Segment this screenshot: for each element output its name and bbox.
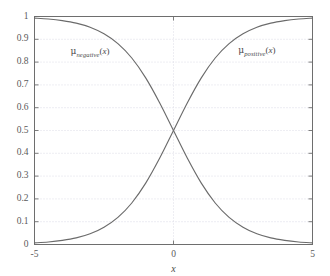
y-tick-label: 0: [0, 240, 29, 250]
mu-negative-close-paren: ): [107, 46, 110, 56]
mu-negative-subscript: negative: [76, 51, 99, 58]
y-tick-label: 0.3: [0, 171, 29, 181]
y-tick-label: 0.1: [0, 217, 29, 227]
y-tick-label: 1: [0, 12, 29, 22]
y-tick-label: 0.7: [0, 80, 29, 90]
plot-canvas: [0, 0, 330, 276]
y-tick-label: 0.4: [0, 149, 29, 159]
mu-positive-close-paren: ): [272, 45, 275, 55]
y-tick-label: 0.5: [0, 126, 29, 136]
x-axis-label: x: [171, 263, 175, 274]
y-tick-label: 0.8: [0, 57, 29, 67]
figure: 00.10.20.30.40.50.60.70.80.91 -505 x μne…: [0, 0, 330, 276]
y-tick-label: 0.2: [0, 194, 29, 204]
mu-negative-annotation: μnegative(x): [71, 47, 110, 58]
mu-positive-annotation: μpositive(x): [238, 46, 275, 57]
y-tick-label: 0.6: [0, 103, 29, 113]
x-tick-label: 0: [171, 250, 176, 260]
mu-positive-subscript: positive: [244, 50, 265, 57]
x-tick-label: -5: [31, 250, 39, 260]
y-tick-label: 0.9: [0, 35, 29, 45]
x-tick-label: 5: [310, 250, 315, 260]
